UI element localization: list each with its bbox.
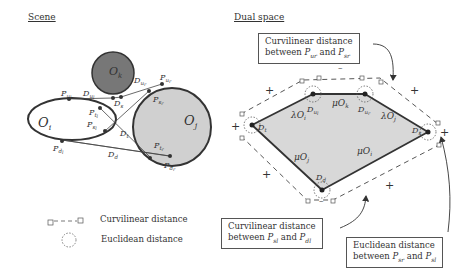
callout-top: Curvilinear distance between Pur and Psr	[258, 33, 360, 64]
svg-text:+: +	[265, 84, 274, 97]
svg-text:+: +	[385, 179, 394, 192]
callout-top-line1: Curvilinear distance	[265, 36, 353, 47]
callout-bottom-left: Curvilinear distance between Psl and Pdl	[221, 218, 323, 249]
svg-text:λOi: λOi	[290, 110, 306, 121]
dual-polygon	[252, 94, 428, 190]
callout-bottom-right-line2: between Psr and Psl	[353, 251, 436, 265]
legend-euclidean-label: Euclidean distance	[101, 234, 183, 244]
callout-bottom-right-line1: Euclidean distance	[353, 240, 436, 251]
svg-text:+: +	[262, 168, 271, 181]
legend-curvilinear-label: Curvilinear distance	[100, 214, 188, 224]
scene-drawing: Oi Ok Oj Pul Dul Dur Pur Ds Psr Ptl Psl …	[28, 52, 211, 172]
svg-text:Pdl: Pdl	[52, 144, 64, 155]
callout-bottom-right: Euclidean distance between Psr and Psl	[346, 237, 443, 268]
svg-text:+: +	[410, 84, 419, 97]
legend-curvilinear-icon	[48, 218, 83, 225]
callout-top-line2: between Pur and Psr	[265, 47, 353, 61]
callout-bottom-left-line1: Curvilinear distance	[228, 221, 316, 232]
svg-text:Dur: Dur	[133, 76, 147, 87]
svg-text:Dd: Dd	[107, 150, 118, 160]
object-oj	[133, 88, 211, 166]
svg-text:+: +	[231, 120, 240, 133]
svg-text:Dt: Dt	[119, 129, 129, 139]
callout-bottom-left-line2: between Psl and Pdl	[228, 232, 316, 246]
svg-text:μOi: μOi	[357, 146, 372, 157]
legend-euclidean-icon	[62, 233, 76, 247]
svg-text:–: –	[319, 196, 324, 206]
svg-text:–: –	[338, 63, 343, 73]
svg-text:Ds: Ds	[113, 99, 123, 109]
dual-space-drawing: + + + + + + – – Dt Dul Dur Ds Dd λOi μOk…	[231, 44, 450, 232]
